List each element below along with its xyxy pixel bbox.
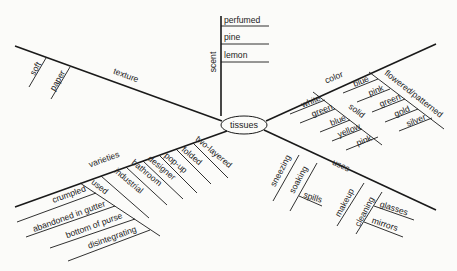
scent-item-lemon: lemon bbox=[224, 50, 248, 60]
patterned-item-gold: gold bbox=[392, 103, 411, 118]
color-group-solid: solid bbox=[347, 101, 367, 120]
branch-scent: scent perfumed pine lemon bbox=[208, 15, 269, 116]
uses-item-sneezing: sneezing bbox=[268, 153, 293, 188]
used-item-crumpled: crumpled bbox=[51, 183, 88, 205]
branch-uses: uses sneezing soaking spills makeup clea… bbox=[264, 130, 436, 237]
center-label: tissues bbox=[230, 120, 259, 130]
texture-item-soft: soft bbox=[28, 59, 44, 77]
cleaning-item-glasses: glasses bbox=[379, 199, 410, 218]
texture-item-paper: paper bbox=[48, 68, 68, 92]
scent-item-pine: pine bbox=[224, 32, 240, 42]
branch-texture: texture soft paper bbox=[15, 46, 222, 121]
patterned-item-pink: pink bbox=[367, 82, 386, 97]
branch-varieties: varieties two-layered folded pop-up desi… bbox=[15, 131, 234, 261]
patterned-item-silver: silver bbox=[405, 112, 427, 129]
solid-item-pink: pink bbox=[355, 132, 374, 147]
varieties-group-used: used bbox=[89, 177, 110, 196]
scent-item-perfumed: perfumed bbox=[224, 15, 261, 25]
branch-label-texture: texture bbox=[112, 66, 140, 84]
branch-label-scent: scent bbox=[208, 51, 218, 72]
branch-color: color solid white green blue yellow pink… bbox=[266, 44, 445, 150]
branch-label-uses: uses bbox=[331, 157, 352, 174]
center-node: tissues bbox=[221, 116, 267, 134]
branch-label-color: color bbox=[323, 69, 344, 85]
mind-map-diagram: tissues scent perfumed pine lemon textur… bbox=[0, 0, 457, 271]
branch-label-varieties: varieties bbox=[87, 149, 120, 169]
